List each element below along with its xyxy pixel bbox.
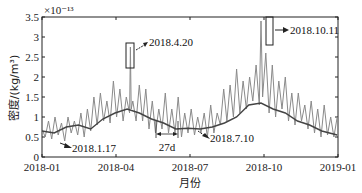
y-axis-title: 密度/(kg/m³) [7,55,21,121]
annotation-27d: 27d [159,141,176,153]
y-tick-label: 1.5 [25,91,39,103]
y-tick-label: 2 [34,71,40,83]
arrowhead-icon [64,143,72,148]
annotation-oct11: 2018.10.11 [290,24,339,36]
arrowhead-icon [156,132,161,136]
y-tick-label: 0.5 [25,131,39,143]
y-tick-label: 3.5 [25,11,39,23]
x-tick-label: 2019-01 [320,161,357,173]
y-multiplier: ×10⁻¹³ [44,4,74,16]
x-tick-label: 2018-04 [98,161,135,173]
y-tick-label: 2.5 [25,51,39,63]
highlight-box-oct11 [266,17,273,45]
y-tick-label: 1 [34,111,40,123]
arrowhead-icon [202,133,210,139]
annotation-jan17: 2018.1.17 [72,142,117,154]
highlight-box-apr20 [126,43,134,68]
y-tick-label: 3 [34,31,40,43]
arrowhead-icon [143,42,148,47]
annotation-apr20: 2018.4.20 [149,36,194,48]
annotation-jul10: 2018.7.10 [210,132,255,144]
density-chart: 00.511.522.533.5 2018-012018-042018-0720… [0,0,362,193]
x-tick-label: 2018-07 [172,161,209,173]
x-tick-label: 2018-01 [24,161,61,173]
arrowhead-icon [283,27,289,33]
x-axis-title: 月份 [179,177,201,190]
x-tick-label: 2018-10 [246,161,283,173]
